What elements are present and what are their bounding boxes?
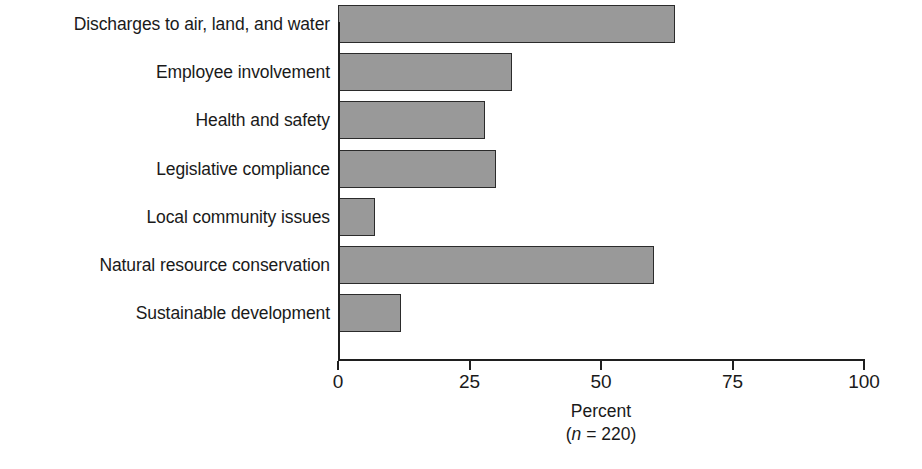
bar-track bbox=[338, 145, 922, 193]
category-label: Natural resource conservation bbox=[0, 255, 330, 275]
bar-track bbox=[338, 0, 922, 48]
x-axis-sample-size: (n = 220) bbox=[338, 423, 864, 446]
sample-size-variable: n bbox=[572, 424, 582, 444]
bar-natural-resource-conservation bbox=[338, 246, 654, 284]
x-axis-tick bbox=[600, 361, 602, 370]
category-label: Health and safety bbox=[0, 110, 330, 130]
sample-size-value: = 220) bbox=[581, 424, 636, 444]
bar-legislative-compliance bbox=[338, 150, 496, 188]
chart-row: Employee involvement bbox=[0, 48, 922, 96]
bar-track bbox=[338, 96, 922, 144]
chart-row: Sustainable development bbox=[0, 289, 922, 337]
x-axis-tick-label: 25 bbox=[459, 370, 480, 394]
category-label: Legislative compliance bbox=[0, 159, 330, 179]
x-axis-tick-label: 100 bbox=[848, 370, 880, 394]
x-axis-title: Percent bbox=[338, 400, 864, 423]
category-label: Discharges to air, land, and water bbox=[0, 14, 330, 34]
x-axis-tick-labels: 0255075100 bbox=[338, 370, 864, 396]
category-label: Sustainable development bbox=[0, 303, 330, 323]
x-axis-tick-label: 75 bbox=[722, 370, 743, 394]
x-axis-tick bbox=[732, 361, 734, 370]
x-axis-tick bbox=[863, 361, 865, 370]
x-axis-tick bbox=[469, 361, 471, 370]
bar-sustainable-development bbox=[338, 294, 401, 332]
chart-row: Natural resource conservation bbox=[0, 241, 922, 289]
bar-track bbox=[338, 193, 922, 241]
bar-discharges bbox=[338, 5, 675, 43]
x-axis-tick-label: 0 bbox=[333, 370, 344, 394]
category-label: Employee involvement bbox=[0, 62, 330, 82]
bar-chart: Discharges to air, land, and water Emplo… bbox=[0, 0, 922, 469]
bar-track bbox=[338, 48, 922, 96]
chart-row: Health and safety bbox=[0, 96, 922, 144]
bar-employee-involvement bbox=[338, 53, 512, 91]
chart-row: Discharges to air, land, and water bbox=[0, 0, 922, 48]
x-axis-tick bbox=[337, 361, 339, 370]
bar-health-and-safety bbox=[338, 101, 485, 139]
chart-row: Legislative compliance bbox=[0, 145, 922, 193]
chart-rows: Discharges to air, land, and water Emplo… bbox=[0, 0, 922, 338]
category-label: Local community issues bbox=[0, 207, 330, 227]
bar-track bbox=[338, 241, 922, 289]
bar-track bbox=[338, 289, 922, 337]
chart-row: Local community issues bbox=[0, 193, 922, 241]
y-axis-line bbox=[338, 22, 340, 361]
bar-local-community-issues bbox=[338, 198, 375, 236]
x-axis-tick-label: 50 bbox=[590, 370, 611, 394]
